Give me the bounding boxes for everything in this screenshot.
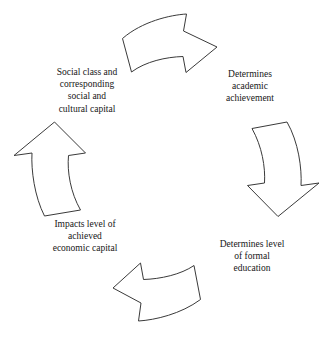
label-economic-capital: Impacts level of achieved economic capit… [24, 218, 146, 255]
curved-arrow-down-icon [248, 122, 320, 217]
cycle-diagram: Social class and corresponding social an… [0, 0, 333, 339]
curved-arrow-left-icon [113, 263, 201, 321]
curved-arrow-right-icon [123, 14, 218, 73]
label-formal-education: Determines level of formal education [194, 238, 310, 275]
cycle-arrows-svg [0, 0, 333, 339]
label-academic-achievement: Determines academic achievement [196, 68, 304, 105]
curved-arrow-up-icon [14, 122, 86, 216]
label-social-class-capital: Social class and corresponding social an… [28, 66, 146, 115]
